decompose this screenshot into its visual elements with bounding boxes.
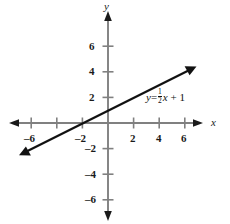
equation-denominator: 2 <box>158 97 163 105</box>
y-tick-label-2: 2 <box>89 92 95 103</box>
y-tick-label--6: –6 <box>85 194 96 205</box>
coordinate-plane <box>0 0 230 224</box>
x-tick-label-4: 4 <box>156 133 162 144</box>
equation-plus: + <box>171 91 177 103</box>
x-axis-arrow-left <box>9 119 19 127</box>
y-tick-label--4: –4 <box>85 169 96 180</box>
equation-annotation: y=12x + 1 <box>146 88 185 105</box>
equation-equals: = <box>151 91 157 103</box>
equation-constant: 1 <box>179 91 185 103</box>
y-tick-label--2: –2 <box>85 143 96 154</box>
x-tick-label-6: 6 <box>181 133 187 144</box>
x-tick-label-2: 2 <box>130 133 136 144</box>
equation-variable: x <box>163 91 168 103</box>
graph-figure: –6 –2 2 4 6 6 4 2 –2 –4 –6 y x y=12x + 1 <box>0 0 230 224</box>
y-tick-label-6: 6 <box>89 41 95 52</box>
y-axis-arrow-up <box>104 11 112 21</box>
x-axis-label: x <box>211 117 216 128</box>
y-axis-label: y <box>104 1 109 12</box>
y-tick-label-4: 4 <box>89 66 95 77</box>
equation-fraction: 12 <box>158 88 163 105</box>
x-tick-label--6: –6 <box>24 133 35 144</box>
x-axis-arrow-right <box>193 119 203 127</box>
y-axis-arrow-down <box>104 211 112 221</box>
